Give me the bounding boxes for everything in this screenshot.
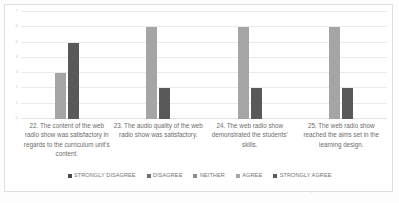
legend-swatch-icon	[236, 174, 240, 178]
legend-item-neither[interactable]: NEITHER	[193, 173, 224, 179]
legend-label: DISAGREE	[153, 173, 182, 179]
y-axis-tick-label: 1	[16, 101, 18, 105]
bar-strongly-agree[interactable]	[342, 88, 353, 119]
y-axis-tick-label: 0	[16, 116, 18, 120]
bar-group	[204, 12, 296, 119]
bar-strongly-agree[interactable]	[68, 43, 79, 119]
legend-item-strongly-disagree[interactable]: STRONGLY DISAGREE	[68, 173, 136, 179]
legend-item-disagree[interactable]: DISAGREE	[147, 173, 183, 179]
y-axis-tick-label: 4	[16, 55, 18, 59]
legend-label: STRONGLY DISAGREE	[74, 173, 136, 179]
y-axis-tick-label: 6	[16, 24, 18, 28]
bar-agree[interactable]	[55, 73, 66, 119]
y-axis-tick-label: 3	[16, 70, 18, 74]
category-label-2: 23. The audio quality of the web radio s…	[113, 121, 205, 159]
legend-swatch-icon	[147, 174, 151, 178]
legend-item-agree[interactable]: AGREE	[236, 173, 262, 179]
scanned-page: 01234567 22. The content of the web radi…	[0, 0, 399, 203]
bar-strongly-agree[interactable]	[159, 88, 170, 119]
y-axis-tick-label: 7	[16, 9, 18, 13]
legend-swatch-icon	[68, 174, 72, 178]
legend-label: NEITHER	[200, 173, 225, 179]
bar-strongly-agree[interactable]	[251, 88, 262, 119]
y-axis-tick-label: 5	[16, 39, 18, 43]
category-label-3: 24. The web radio show demonstrated the …	[204, 121, 296, 159]
y-axis-tick-label: 2	[16, 85, 18, 89]
legend-label: AGREE	[242, 173, 262, 179]
bar-agree[interactable]	[146, 27, 157, 119]
chart-frame: 01234567 22. The content of the web radi…	[4, 4, 393, 192]
chart-legend: STRONGLY DISAGREEDISAGREENEITHERAGREESTR…	[5, 173, 394, 179]
bar-groups	[21, 12, 387, 119]
legend-item-strongly-agree[interactable]: STRONGLY AGREE	[273, 173, 331, 179]
plot-area: 01234567	[21, 12, 387, 119]
category-label-4: 25. The web radio show reached the aims …	[296, 121, 388, 159]
category-axis-labels: 22. The content of the web radio show wa…	[21, 121, 387, 159]
category-label-1: 22. The content of the web radio show wa…	[21, 121, 113, 159]
bar-agree[interactable]	[238, 27, 249, 119]
bar-agree[interactable]	[329, 27, 340, 119]
bar-group	[21, 12, 113, 119]
legend-swatch-icon	[193, 174, 197, 178]
legend-label: STRONGLY AGREE	[280, 173, 332, 179]
bar-group	[113, 12, 205, 119]
bar-group	[296, 12, 388, 119]
legend-swatch-icon	[273, 174, 277, 178]
